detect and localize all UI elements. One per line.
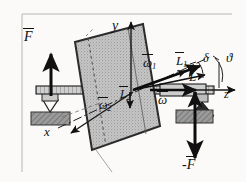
axis-label-y: y xyxy=(112,19,118,33)
L1-subscript: 1 xyxy=(183,59,187,69)
L-label: L xyxy=(189,70,196,83)
L1-label: L1 xyxy=(176,54,188,67)
omega1-symbol: ω xyxy=(143,56,152,69)
force-up-label: F xyxy=(24,30,33,44)
omega2-label: ω2 xyxy=(99,99,111,111)
omega-spin-symbol: ω xyxy=(158,93,167,106)
gyroscope-diagram: y x z F -F ω ω1 ω2 L1 L L2 δ ϑ xyxy=(0,0,246,182)
axis-label-z: z xyxy=(224,88,229,100)
angle-theta-mark xyxy=(213,56,223,88)
force-up-symbol: F xyxy=(24,30,33,44)
L2-subscript: 2 xyxy=(127,93,131,102)
omega2-subscript: 2 xyxy=(107,104,111,113)
L-symbol: L xyxy=(189,70,196,83)
angle-theta-label: ϑ xyxy=(226,51,232,64)
ground-support-base xyxy=(31,100,70,125)
L2-label: L2 xyxy=(120,88,131,100)
angle-delta-label: δ xyxy=(203,52,209,64)
L2-symbol: L xyxy=(120,88,127,100)
force-down-label: -F xyxy=(182,158,195,172)
omega-spin-label: ω xyxy=(158,93,167,106)
omega1-subscript: 1 xyxy=(152,61,156,71)
omega1-label: ω1 xyxy=(143,56,156,69)
axis-label-x: x xyxy=(44,125,50,138)
force-down-symbol: F xyxy=(187,158,196,172)
